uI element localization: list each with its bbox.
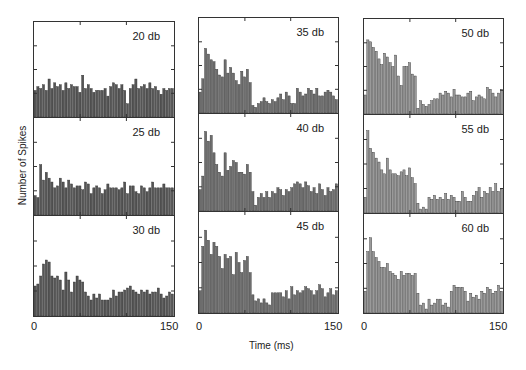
histogram-bar (445, 303, 447, 313)
histogram-bar (160, 294, 162, 316)
histogram-bar (249, 83, 251, 113)
histogram-bar (230, 166, 232, 211)
histogram-bar (126, 194, 128, 215)
histogram-bar (294, 104, 296, 114)
histogram-bar (143, 292, 145, 316)
histogram-bar (288, 299, 290, 313)
histogram-bar (235, 81, 237, 113)
histogram-bar (84, 292, 86, 316)
histogram-bar (124, 90, 126, 117)
histogram-bar (296, 291, 298, 313)
histogram-bar (152, 292, 154, 316)
histogram-bar (282, 100, 284, 113)
histogram-bar (431, 101, 433, 114)
histogram-bar (96, 186, 98, 215)
histogram-bar (157, 188, 159, 215)
histogram-bar (216, 246, 218, 313)
histogram-bar (481, 197, 483, 213)
histogram-bar (478, 95, 480, 114)
histogram-bar (241, 71, 243, 113)
histogram-bar (59, 280, 61, 316)
histogram-bar (467, 93, 469, 114)
histogram-bar (202, 79, 204, 113)
histogram-bar (403, 67, 405, 115)
histogram-bar (40, 165, 42, 215)
histogram-bar (269, 104, 271, 114)
histogram-bar (132, 186, 134, 215)
histogram-bar (166, 188, 168, 215)
histogram-bar (472, 297, 474, 313)
histogram-bar (257, 104, 259, 114)
histogram-bar (48, 262, 50, 316)
histogram-bar (79, 186, 81, 215)
histogram-bar (408, 168, 410, 213)
histogram-bar (213, 242, 215, 313)
histogram-bar (210, 254, 212, 313)
histogram-bar (472, 195, 474, 213)
histogram-bar (383, 53, 385, 114)
histogram-bar (332, 96, 334, 113)
histogram-bar (428, 105, 430, 115)
histogram-bar (406, 273, 408, 313)
histogram-bar (230, 256, 232, 313)
histogram-bar (87, 184, 89, 215)
histogram-bar (316, 291, 318, 313)
histogram-bar (467, 301, 469, 313)
histogram-bar (411, 178, 413, 213)
histogram-bar (37, 87, 39, 117)
panel-label: 30 db (132, 224, 160, 236)
histogram-bar (160, 188, 162, 215)
histogram-bar (445, 193, 447, 213)
histogram-bar (76, 186, 78, 215)
histogram-bar (456, 287, 458, 313)
histogram-bar (397, 176, 399, 213)
histogram-bar (389, 271, 391, 313)
histogram-bar (73, 282, 75, 316)
histogram-bar (445, 91, 447, 114)
histogram-bar (375, 158, 377, 213)
histogram-bar (76, 276, 78, 316)
histogram-bar (447, 307, 449, 313)
histogram-bar (332, 190, 334, 211)
histogram-bar (166, 90, 168, 117)
histogram-bar (149, 83, 151, 117)
histogram-bar (470, 293, 472, 313)
histogram-bar (93, 294, 95, 316)
histogram-bar (335, 184, 337, 211)
histogram-bar (168, 292, 170, 316)
histogram-bar (42, 85, 44, 117)
histogram-bar (400, 172, 402, 213)
histogram-bar (271, 192, 273, 211)
histogram-bar (378, 162, 380, 213)
histogram-bar (168, 188, 170, 215)
histogram-bar (82, 282, 84, 316)
histogram-bar (115, 85, 117, 117)
histogram-bar (152, 182, 154, 215)
histogram-bar (243, 77, 245, 113)
histogram-bar (157, 90, 159, 117)
histogram-bar (486, 287, 488, 313)
histogram-bar (434, 195, 436, 213)
x-tick-col2-start: 0 (196, 320, 202, 332)
histogram-bar (129, 286, 131, 316)
histogram-bar (417, 293, 419, 313)
histogram-bar (163, 89, 165, 118)
histogram-bar (386, 158, 388, 213)
histogram-bar (321, 190, 323, 211)
histogram-bar (481, 97, 483, 114)
panel-label: 45 db (296, 220, 324, 232)
histogram-bar (280, 94, 282, 113)
histogram-bar (389, 170, 391, 213)
histogram-bar (428, 299, 430, 313)
histogram-bar (296, 182, 298, 211)
histogram-bar (280, 293, 282, 313)
histogram-bar (82, 75, 84, 117)
histogram-bar (335, 291, 337, 313)
histogram-bar (386, 57, 388, 114)
histogram-bar (288, 96, 290, 113)
histogram-bar (442, 199, 444, 213)
histogram-bar (110, 87, 112, 117)
histogram-bar (263, 197, 265, 211)
histogram-bar (307, 88, 309, 113)
histogram-bar (98, 294, 100, 316)
